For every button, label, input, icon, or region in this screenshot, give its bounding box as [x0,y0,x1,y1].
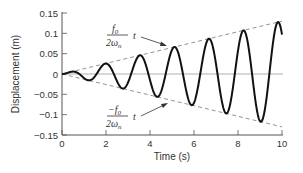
response-curve [62,22,282,122]
y-tick-label: −0.1 [39,109,58,120]
lower-annot-denominator: 2ωn [106,118,122,131]
y-tick-label: 0.1 [45,28,58,39]
x-tick-label: 8 [235,138,240,149]
lower-annot-numerator: −f0 [108,104,122,117]
upper-arrowhead-icon [160,42,167,47]
y-tick-label: 0 [53,69,58,80]
lower-arrowhead-icon [161,103,168,108]
y-tick-label: 0.15 [40,8,59,19]
x-tick-label: 10 [277,138,288,149]
x-tick-label: 4 [147,138,152,149]
y-tick-label: −0.15 [34,130,58,141]
y-tick-label: −0.05 [34,89,58,100]
upper-annot-numerator: f0 [112,23,119,36]
displacement-chart: 0.150.10.050−0.05−0.1−0.15 0246810 f0 2ω… [0,0,303,173]
x-axis-ticks: 0246810 [59,130,287,149]
upper-annot-denominator: 2ωn [106,37,122,50]
x-axis-title: Time (s) [154,151,190,162]
x-tick-label: 2 [103,138,108,149]
upper-annot-t: t [133,30,136,41]
lower-envelope-line [62,74,282,127]
x-tick-label: 6 [191,138,196,149]
y-tick-label: 0.05 [40,48,59,59]
lower-envelope-annotation: −f0 2ωn t [106,103,168,131]
y-axis-title: Displacement (m) [10,35,21,113]
lower-annot-t: t [133,111,136,122]
upper-envelope-annotation: f0 2ωn t [106,23,167,50]
x-tick-label: 0 [59,138,64,149]
